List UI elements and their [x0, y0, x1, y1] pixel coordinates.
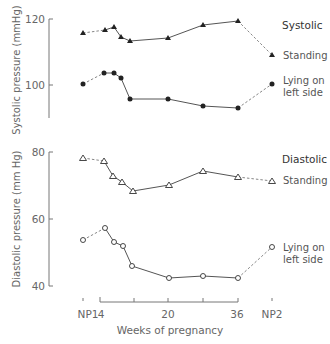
- systolic-legend: Systolic Standing Lying on left side: [282, 19, 328, 98]
- y-tick-80: 80: [32, 146, 45, 158]
- open-triangle-markers: [80, 155, 276, 194]
- y-tick-60: 60: [32, 213, 45, 225]
- systolic-y-axis: 120 100 Systolic pressure (mmHg): [11, 5, 53, 134]
- systolic-lying-label-1: Lying on: [283, 75, 325, 86]
- diastolic-legend: Diastolic Standing Lying on left side: [282, 153, 328, 265]
- x-axis: NP1 4 20 36 NP2 Weeks of pregnancy: [78, 297, 283, 336]
- series-diastolic-standing: [80, 155, 276, 194]
- x-tick-np2: NP2: [262, 308, 283, 320]
- y-tick-120: 120: [25, 13, 45, 25]
- series-systolic-lying: [81, 71, 275, 111]
- filled-circle-markers: [81, 71, 275, 111]
- y-tick-40: 40: [32, 280, 45, 292]
- diastolic-y-axis-title: Diastolic pressure (mm Hg): [11, 151, 22, 288]
- diastolic-title: Diastolic: [282, 153, 327, 165]
- systolic-y-axis-title: Systolic pressure (mmHg): [11, 5, 22, 134]
- systolic-lying-label-2: left side: [283, 87, 323, 98]
- systolic-title: Systolic: [282, 19, 323, 31]
- blood-pressure-chart: 120 100 Systolic pressure (mmHg) 80 60 4…: [0, 0, 330, 344]
- series-diastolic-lying: [81, 226, 275, 281]
- x-tick-36: 36: [230, 308, 244, 320]
- filled-triangle-markers: [80, 18, 275, 57]
- x-axis-title: Weeks of pregnancy: [117, 324, 224, 336]
- x-tick-np1: NP1: [78, 308, 99, 320]
- x-tick-20: 20: [161, 308, 174, 320]
- x-tick-4: 4: [98, 308, 105, 320]
- series-systolic-standing: [80, 18, 275, 57]
- diastolic-y-axis: 80 60 40 Diastolic pressure (mm Hg): [11, 146, 53, 292]
- diastolic-standing-label: Standing: [283, 175, 328, 186]
- diastolic-lying-label-2: left side: [283, 254, 323, 265]
- diastolic-lying-label-1: Lying on: [283, 242, 325, 253]
- open-circle-markers: [81, 226, 275, 281]
- systolic-standing-label: Standing: [283, 50, 328, 61]
- y-tick-100: 100: [25, 79, 45, 91]
